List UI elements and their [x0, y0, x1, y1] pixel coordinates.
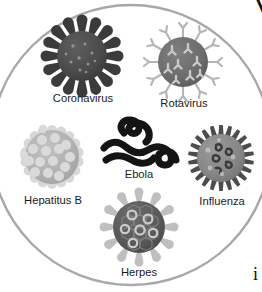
coronavirus-body [57, 31, 107, 81]
label-ebola: Ebola [125, 168, 154, 180]
label-influenza: Influenza [199, 195, 245, 207]
illustration-canvas: Coronavirus [0, 0, 262, 292]
rotavirus-body [158, 37, 208, 87]
label-herpes: Herpes [121, 266, 157, 278]
label-hepatitus-b: Hepatitus B [24, 194, 82, 206]
label-coronavirus: Coronavirus [53, 92, 114, 104]
clipped-glyph-top-right: V [252, 0, 262, 20]
clipped-glyph-bottom-right: i [253, 264, 258, 284]
virus-types-illustration: Coronavirus [0, 0, 262, 292]
label-rotavirus: Rotavirus [160, 97, 208, 109]
